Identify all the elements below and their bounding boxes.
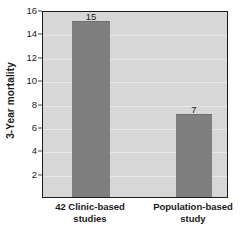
bar-1 xyxy=(72,21,110,197)
x-category-line: Population-based xyxy=(153,201,233,213)
x-category-line: studies xyxy=(55,213,125,225)
gridline-10 xyxy=(43,82,227,83)
y-tick-label-12: 12 xyxy=(26,53,37,63)
y-axis-tick-labels: 246810121416 xyxy=(20,11,42,198)
x-category-line: 42 Clinic-based xyxy=(55,201,125,213)
y-tick-label-4: 4 xyxy=(32,147,37,157)
plot-area: 157 xyxy=(42,11,228,198)
bar-value-label-2: 7 xyxy=(191,105,196,115)
bar-2 xyxy=(176,114,212,197)
x-category-line: study xyxy=(153,213,233,225)
x-category-label-2: Population-basedstudy xyxy=(153,201,233,225)
x-axis-category-labels: 42 Clinic-basedstudiesPopulation-basedst… xyxy=(42,201,228,230)
y-tick-label-14: 14 xyxy=(26,30,37,40)
y-axis-title-container: 3-Year mortality xyxy=(0,0,20,200)
gridline-8 xyxy=(43,106,227,107)
y-tick-label-6: 6 xyxy=(32,123,37,133)
y-tick-label-2: 2 xyxy=(32,170,37,180)
x-category-label-1: 42 Clinic-basedstudies xyxy=(55,201,125,225)
bar-chart-figure: 3-Year mortality 246810121416 157 42 Cli… xyxy=(0,0,245,230)
y-tick-label-8: 8 xyxy=(32,100,37,110)
gridline-14 xyxy=(43,35,227,36)
bar-value-label-1: 15 xyxy=(86,12,97,22)
y-tick-label-10: 10 xyxy=(26,76,37,86)
y-tick-label-16: 16 xyxy=(26,6,37,16)
y-axis-title: 3-Year mortality xyxy=(5,62,16,139)
gridline-12 xyxy=(43,59,227,60)
